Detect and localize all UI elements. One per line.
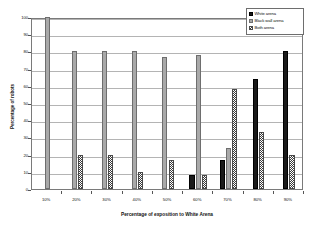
- x-axis-tick-label: 90%: [284, 198, 292, 202]
- bar: [202, 175, 207, 189]
- legend-item-label: Both arena: [255, 26, 275, 30]
- x-axis-tick-label: 80%: [253, 198, 261, 202]
- bar: [45, 17, 50, 189]
- x-axis-tick-label: 40%: [133, 198, 141, 202]
- bar: [283, 51, 288, 189]
- bar: [78, 155, 83, 189]
- x-axis-tick-mark: [243, 191, 244, 194]
- legend-swatch-icon: [249, 26, 253, 30]
- bar: [108, 155, 113, 189]
- x-axis-tick-mark: [303, 191, 304, 194]
- x-axis: 10%20%30%40%50%60%70%80%90%: [31, 191, 303, 207]
- bar: [138, 172, 143, 189]
- x-axis-tick-label: 50%: [163, 198, 171, 202]
- y-axis: 0102030405060708090100: [0, 18, 31, 190]
- bar-chart: Percentage of robots 0102030405060708090…: [0, 0, 314, 232]
- legend-swatch-icon: [249, 19, 253, 23]
- bar: [289, 155, 294, 189]
- legend-item[interactable]: Black wall arena: [249, 18, 301, 25]
- legend-swatch-icon: [249, 12, 253, 16]
- gridline: [32, 36, 302, 37]
- x-axis-tick-mark: [122, 191, 123, 194]
- x-axis-tick-label: 70%: [223, 198, 231, 202]
- legend-item-label: White arena: [255, 12, 276, 16]
- bar: [232, 89, 237, 189]
- chart-legend: White arenaBlack wall arenaBoth arena: [246, 8, 304, 35]
- x-axis-tick-mark: [152, 191, 153, 194]
- bar: [162, 57, 167, 189]
- x-axis-tick-label: 30%: [102, 198, 110, 202]
- bar: [102, 51, 107, 189]
- x-axis-title: Percentage of exposition to White Arena: [31, 212, 303, 217]
- bar: [259, 132, 264, 189]
- bar: [189, 175, 194, 189]
- bar: [220, 160, 225, 189]
- x-axis-tick-mark: [182, 191, 183, 194]
- x-axis-tick-label: 10%: [42, 198, 50, 202]
- bar: [132, 51, 137, 189]
- x-axis-tick-mark: [61, 191, 62, 194]
- legend-item-label: Black wall arena: [255, 19, 284, 23]
- bar: [226, 148, 231, 189]
- bar: [253, 79, 258, 189]
- bar: [72, 51, 77, 189]
- x-axis-tick-mark: [273, 191, 274, 194]
- bar: [196, 55, 201, 189]
- x-axis-tick-mark: [91, 191, 92, 194]
- legend-item[interactable]: White arena: [249, 11, 301, 18]
- x-axis-tick-label: 60%: [193, 198, 201, 202]
- legend-item[interactable]: Both arena: [249, 25, 301, 32]
- bar: [169, 160, 174, 189]
- plot-area: [31, 18, 303, 190]
- y-axis-tick-label: 100: [21, 16, 28, 20]
- x-axis-tick-mark: [212, 191, 213, 194]
- x-axis-tick-label: 20%: [72, 198, 80, 202]
